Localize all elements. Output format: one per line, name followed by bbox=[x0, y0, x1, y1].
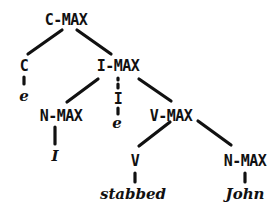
leaf-stabbed: stabbed bbox=[100, 186, 166, 202]
edge-cmax-c bbox=[28, 30, 62, 54]
leaf-i: I bbox=[51, 148, 58, 164]
node-n-max-left: N-MAX bbox=[40, 108, 83, 124]
node-n-max-right: N-MAX bbox=[224, 153, 267, 169]
node-i-max: I-MAX bbox=[97, 58, 140, 74]
edge-imax-nmax bbox=[67, 79, 98, 102]
leaf-i-e: e bbox=[112, 115, 122, 131]
edge-vmax-nmax bbox=[198, 121, 231, 145]
node-v-max: V-MAX bbox=[150, 108, 193, 124]
leaf-c-e: e bbox=[19, 88, 29, 104]
node-c: C bbox=[20, 58, 29, 74]
edge-cmax-imax bbox=[77, 30, 111, 54]
node-v: V bbox=[131, 153, 140, 169]
node-i: I bbox=[114, 91, 123, 107]
edge-vmax-v bbox=[139, 122, 170, 146]
edge-imax-vmax bbox=[139, 79, 171, 101]
node-c-max: C-MAX bbox=[45, 12, 88, 28]
leaf-john: John bbox=[226, 186, 265, 202]
